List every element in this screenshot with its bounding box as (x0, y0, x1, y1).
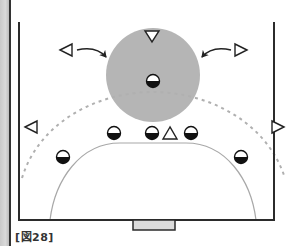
arrow-left-to-zone-icon (77, 49, 106, 57)
defender-center-line-icon (146, 127, 159, 140)
defender-left-back-icon (108, 127, 121, 140)
arrow-right-to-zone-icon (202, 49, 231, 57)
attacker-right-back-triangle-icon (235, 44, 247, 56)
handball-court-diagram (0, 0, 306, 246)
figure-label: [図28] (15, 228, 54, 244)
attacker-right-wing-triangle-icon (272, 121, 284, 133)
defender-right-wing-icon (235, 151, 248, 164)
attacker-pivot-triangle-icon (163, 127, 177, 139)
goal-area-line (50, 143, 256, 220)
attacker-left-wing-triangle-icon (25, 121, 37, 133)
goal (133, 220, 175, 230)
defender-right-back-icon (185, 127, 198, 140)
attacker-left-back-triangle-icon (60, 44, 72, 56)
defender-center-icon (147, 75, 160, 88)
defender-left-wing-icon (57, 151, 70, 164)
